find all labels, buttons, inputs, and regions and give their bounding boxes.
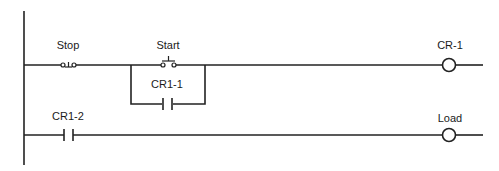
ladder-diagram: Stop Start CR1-1 CR-1 C: [0, 0, 499, 171]
cr-1-coil-icon: [443, 59, 456, 72]
cr1-1-contact-no-icon: [163, 98, 172, 110]
load-label: Load: [438, 112, 462, 124]
load-coil-icon: [443, 129, 456, 142]
stop-pushbutton-nc-icon: [61, 62, 76, 67]
rung-1: Stop Start CR1-1 CR-1: [24, 39, 483, 110]
cr-1-label: CR-1: [437, 39, 463, 51]
stop-label: Stop: [57, 39, 80, 51]
start-pushbutton-no-icon: [161, 56, 176, 67]
cr1-2-contact-no-icon: [64, 129, 73, 141]
cr1-1-label: CR1-1: [151, 78, 183, 90]
start-label: Start: [156, 39, 179, 51]
rung-2: CR1-2 Load: [24, 110, 483, 142]
cr1-2-label: CR1-2: [52, 110, 84, 122]
